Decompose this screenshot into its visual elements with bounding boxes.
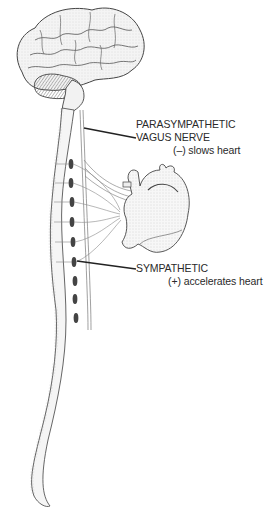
parasympathetic-leader-line [84,128,136,138]
parasympathetic-title: PARASYMPATHETIC [136,118,240,131]
sympathetic-title: SYMPATHETIC [136,262,263,275]
vagus-nerve-title: VAGUS NERVE [136,131,240,144]
parasympathetic-effect: (–) slows heart [136,144,240,157]
brain [17,8,144,112]
heart [122,164,189,252]
parasympathetic-label: PARASYMPATHETIC VAGUS NERVE (–) slows he… [136,118,240,157]
spinal-cord [32,108,74,507]
anatomy-illustration [0,0,280,514]
sympathetic-effect: (+) accelerates heart [136,275,263,288]
sympathetic-label: SYMPATHETIC (+) accelerates heart [136,262,263,288]
